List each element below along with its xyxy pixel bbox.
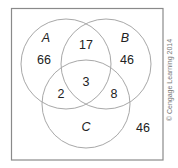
set-label-b: B	[121, 31, 129, 45]
region-outside: 46	[136, 121, 150, 135]
set-label-a: A	[41, 31, 50, 45]
region-b-and-c: 8	[111, 87, 118, 101]
venn-diagram: A B C 66 46 17 3 2 8 46 © Cengage Learni…	[0, 0, 178, 168]
region-b-only: 46	[120, 53, 134, 67]
region-a-only: 66	[37, 53, 51, 67]
region-a-and-b-and-c: 3	[83, 75, 90, 89]
set-label-c: C	[81, 120, 91, 134]
region-a-and-c: 2	[58, 87, 65, 101]
copyright-credit: © Cengage Learning 2014	[166, 39, 174, 121]
circle-a	[21, 19, 111, 109]
region-a-and-b: 17	[79, 38, 93, 52]
circle-b	[61, 19, 151, 109]
